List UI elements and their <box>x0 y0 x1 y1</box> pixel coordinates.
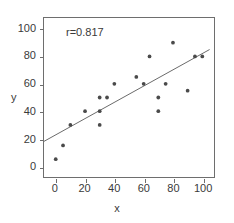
data-point <box>156 109 160 113</box>
data-point <box>98 109 102 113</box>
regression-line <box>44 50 210 142</box>
data-point <box>156 96 160 100</box>
data-point <box>142 82 146 86</box>
y-tick-mark <box>40 29 44 30</box>
x-tick-label: 40 <box>108 183 120 194</box>
y-axis-label: y <box>11 91 17 103</box>
y-tick-mark <box>40 57 44 58</box>
x-axis-tick-labels: 0 20 40 60 80 100 <box>43 183 215 197</box>
data-point <box>98 123 102 127</box>
y-axis-tick-labels: 100 80 60 40 20 0 <box>0 17 38 178</box>
y-tick-label: 40 <box>24 106 36 117</box>
y-tick-mark <box>40 85 44 86</box>
x-tick-label: 60 <box>138 183 150 194</box>
data-point <box>69 123 73 127</box>
data-point <box>105 96 109 100</box>
plot-canvas <box>44 18 214 177</box>
data-point <box>200 55 204 59</box>
y-tick-mark <box>40 168 44 169</box>
y-tick-label: 100 <box>18 23 36 34</box>
data-point <box>54 157 58 161</box>
x-tick-label: 80 <box>167 183 179 194</box>
data-points-group <box>54 41 204 161</box>
data-point <box>98 96 102 100</box>
data-point <box>61 144 65 148</box>
data-point <box>164 82 168 86</box>
x-tick-label: 100 <box>194 183 212 194</box>
y-tick-label: 60 <box>24 78 36 89</box>
y-tick-label: 80 <box>24 50 36 61</box>
data-point <box>148 55 152 59</box>
data-point <box>112 82 116 86</box>
scatter-plot-figure: 100 80 60 40 20 0 y r=0.817 0 20 40 60 8… <box>0 0 234 223</box>
y-tick-label: 20 <box>24 134 36 145</box>
y-tick-mark <box>40 112 44 113</box>
y-tick-mark <box>40 140 44 141</box>
data-point <box>134 75 138 79</box>
data-point <box>193 55 197 59</box>
x-axis-label: x <box>0 202 234 214</box>
y-tick-label: 0 <box>30 161 36 172</box>
x-tick-label: 20 <box>78 183 90 194</box>
data-point <box>83 109 87 113</box>
data-point <box>171 41 175 45</box>
data-point <box>186 89 190 93</box>
x-tick-label: 0 <box>52 183 58 194</box>
plot-area: r=0.817 <box>43 17 215 178</box>
